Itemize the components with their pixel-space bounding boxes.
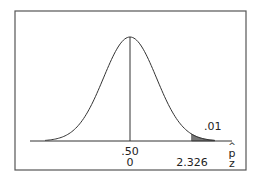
tail-area-label: .01	[204, 120, 222, 133]
chart-canvas: .01 .50 0 2.326 ^ p z	[0, 0, 263, 185]
z-center-label: 0	[127, 156, 134, 169]
z-axis-label: z	[229, 157, 235, 170]
z-critical-label: 2.326	[176, 156, 208, 169]
normal-distribution-figure: .01 .50 0 2.326 ^ p z	[0, 0, 263, 185]
